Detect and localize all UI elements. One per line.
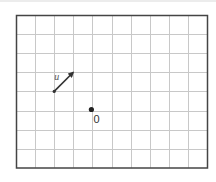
vector-u-label: u⃗: [54, 71, 67, 82]
point-o-dot: [89, 107, 94, 112]
point-o-label: 0: [93, 113, 99, 125]
grid-diagram: [0, 0, 216, 182]
grid-lines: [16, 15, 207, 168]
vector-u-start-point: [53, 90, 56, 93]
